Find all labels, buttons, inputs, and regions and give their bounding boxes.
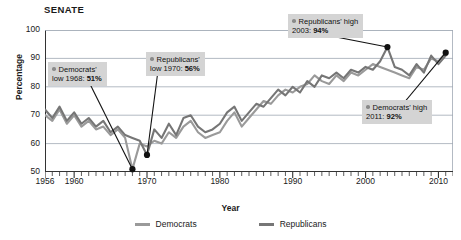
x-tick-label: 2000 xyxy=(356,176,375,186)
annotation-point-dem-high xyxy=(443,50,449,56)
y-tick-label: 80 xyxy=(14,81,40,91)
annotation-callout-rep-high: Republicans' high2003: 94% xyxy=(288,14,363,38)
annotation-line-1: Republicans' xyxy=(157,55,200,64)
annotation-value: 56% xyxy=(185,64,200,73)
legend-swatch-icon xyxy=(259,223,274,226)
legend-swatch-icon xyxy=(135,223,150,226)
annotation-callout-rep-low: Republicans'low 1970: 56% xyxy=(146,52,205,76)
page-title: SENATE xyxy=(44,4,84,15)
y-tick-label: 70 xyxy=(14,109,40,119)
annotation-point-dem-low xyxy=(129,166,135,172)
bullet-icon xyxy=(150,57,154,61)
y-tick-label: 90 xyxy=(14,52,40,62)
annotation-point-rep-low xyxy=(144,152,150,158)
annotation-point-rep-high xyxy=(384,44,390,50)
annotation-value: 92% xyxy=(387,112,402,121)
annotation-callout-dem-low: Democrats'low 1968: 51% xyxy=(48,62,107,86)
bullet-icon xyxy=(366,105,370,109)
bullet-icon xyxy=(292,19,296,23)
x-tick-label: 1980 xyxy=(210,176,229,186)
legend-label: Democrats xyxy=(156,219,197,229)
annotation-value: 51% xyxy=(87,74,102,83)
chart-legend: DemocratsRepublicans xyxy=(0,219,461,229)
annotation-line-2: low 1968: xyxy=(52,74,87,83)
x-tick-label: 1960 xyxy=(65,176,84,186)
x-tick-label: 1956 xyxy=(36,176,55,186)
x-tick-label: 2010 xyxy=(429,176,448,186)
annotation-line-1: Republicans' high xyxy=(299,17,359,26)
x-axis-ticks: 1956196019701980199020002010 xyxy=(0,176,461,190)
y-tick-label: 100 xyxy=(14,24,40,34)
annotation-line-1: Democrats' high xyxy=(373,103,428,112)
legend-item-republicans[interactable]: Republicans xyxy=(259,219,327,229)
annotation-callout-dem-high: Democrats' high2011: 92% xyxy=(362,100,432,124)
x-tick-label: 1990 xyxy=(283,176,302,186)
annotation-line-2: 2003: xyxy=(292,26,313,35)
legend-item-democrats[interactable]: Democrats xyxy=(135,219,197,229)
x-axis-label: Year xyxy=(0,203,461,213)
y-tick-label: 50 xyxy=(14,166,40,176)
x-tick-label: 1970 xyxy=(138,176,157,186)
annotation-value: 94% xyxy=(313,26,328,35)
y-tick-label: 60 xyxy=(14,138,40,148)
legend-label: Republicans xyxy=(280,219,327,229)
annotation-line-2: low 1970: xyxy=(150,64,185,73)
annotation-line-1: Democrats' xyxy=(59,65,97,74)
annotation-line-2: 2011: xyxy=(366,112,387,121)
chart-root: SENATE Percentage 5060708090100 19561960… xyxy=(0,0,461,240)
bullet-icon xyxy=(52,67,56,71)
